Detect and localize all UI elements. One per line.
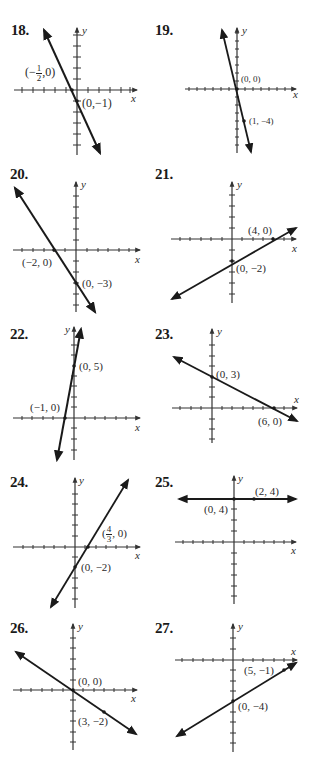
- y-axis-label-27: y: [238, 620, 243, 632]
- problem-number-21: 21.: [155, 166, 173, 183]
- point-label-0-4: (0, 4): [204, 503, 228, 515]
- point-label-0-neg2: (0, −2): [236, 262, 266, 274]
- point-label-neg1-0: (−1, 0): [30, 401, 60, 413]
- x-axis-label-23: x: [294, 393, 299, 405]
- y-axis-label-25: y: [238, 472, 243, 484]
- x-axis-label-20: x: [135, 253, 140, 265]
- point-label-0-neg3: (0, −3): [82, 277, 112, 289]
- point-label-4-0: (4, 0): [248, 224, 272, 236]
- y-axis-label-24: y: [79, 474, 84, 486]
- point-label-5-neg1: (5, −1): [244, 664, 274, 676]
- point-label-0-neg4: (0, −4): [238, 700, 268, 712]
- point-label-3-neg2: (3, −2): [78, 715, 108, 727]
- problem-number-20: 20.: [10, 166, 28, 183]
- y-axis-label-21: y: [237, 178, 242, 190]
- problem-number-24: 24.: [10, 474, 28, 491]
- problem-number-22: 22.: [10, 326, 28, 343]
- point-label-0-3: (0, 3): [216, 368, 240, 380]
- x-axis-label-24: x: [135, 549, 140, 561]
- point-label-0-neg2: (0, −2): [81, 561, 111, 573]
- point-label-1-neg4: (1, −4): [249, 116, 274, 126]
- x-axis-label-27: x: [291, 645, 296, 657]
- problem-number-18: 18.: [11, 22, 29, 39]
- graph-27: [175, 624, 297, 752]
- graph-19: [185, 28, 296, 153]
- point-label-0-0: (0, 0): [241, 74, 261, 84]
- x-axis-label-19: x: [293, 88, 298, 100]
- x-axis-label-25: x: [291, 544, 296, 556]
- y-axis-label-22: y: [65, 323, 70, 335]
- problem-number-26: 26.: [10, 620, 28, 637]
- x-axis-label-26: x: [131, 692, 136, 704]
- point-label-neg-half-0: (−12,0): [25, 64, 55, 83]
- y-axis-label-18: y: [82, 24, 87, 36]
- point-label-0-5: (0, 5): [79, 360, 103, 372]
- x-axis-label-21: x: [292, 242, 297, 254]
- y-axis-label-19: y: [242, 24, 247, 36]
- graph-18: [14, 28, 137, 155]
- graph-20: [13, 182, 140, 312]
- problem-number-27: 27.: [155, 620, 173, 637]
- x-axis-label-18: x: [131, 92, 136, 104]
- y-axis-label-20: y: [81, 178, 86, 190]
- problem-number-25: 25.: [155, 474, 173, 491]
- graph-21: [171, 182, 296, 303]
- point-label-6-0: (6, 0): [258, 415, 282, 427]
- graph-22: [13, 327, 140, 460]
- graph-26: [13, 624, 137, 750]
- point-label-0-neg1: (0,−1): [82, 96, 112, 111]
- problem-number-19: 19.: [155, 22, 173, 39]
- y-axis-label-23: y: [217, 325, 222, 337]
- point-label-2-4: (2, 4): [255, 485, 279, 497]
- point-label-neg2-0: (−2, 0): [22, 256, 52, 268]
- y-axis-label-26: y: [78, 620, 83, 632]
- point-label-0-0: (0, 0): [78, 675, 102, 687]
- problem-number-23: 23.: [155, 326, 173, 343]
- point-label-4thirds-0: (43, 0): [102, 525, 127, 544]
- x-axis-label-22: x: [135, 421, 140, 433]
